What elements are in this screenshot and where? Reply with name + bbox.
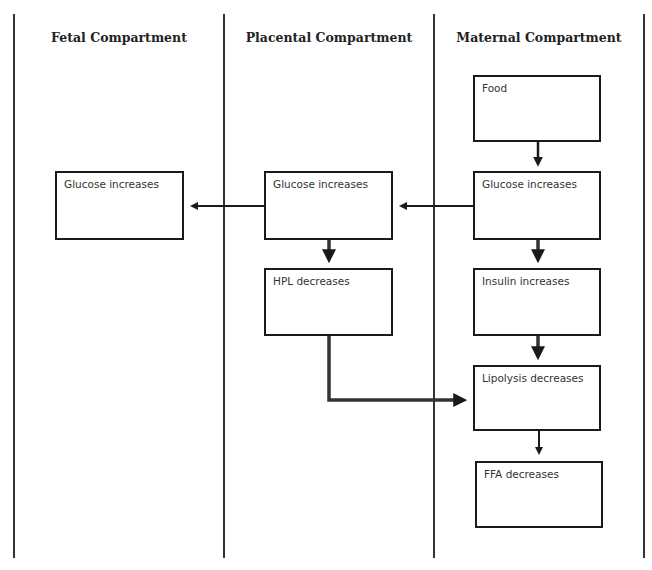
arrow-layer — [0, 0, 652, 570]
arrow-hpl-to-lipolysis — [329, 336, 462, 400]
